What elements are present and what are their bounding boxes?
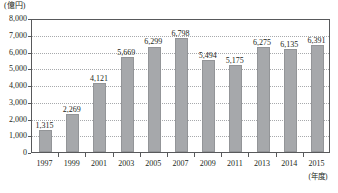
y-axis-tick-label: 0 xyxy=(0,149,27,157)
x-axis-tick-label: 2015 xyxy=(299,159,333,168)
y-axis-tick-label: 6,000 xyxy=(0,49,27,57)
bar-value-label: 6,299 xyxy=(136,37,170,46)
bar-value-label: 6,391 xyxy=(299,36,333,45)
bar-value-label: 1,315 xyxy=(28,121,62,130)
x-axis-tick-mark xyxy=(248,153,249,157)
bar xyxy=(93,83,106,152)
y-axis-unit-label: (億円) xyxy=(4,1,25,11)
y-axis-tick-label: 4,000 xyxy=(0,82,27,90)
x-axis-tick-mark xyxy=(221,153,222,157)
y-axis-tick-label: 3,000 xyxy=(0,99,27,107)
bar-chart: (億円) 8,0007,0006,0005,0004,0003,0002,000… xyxy=(0,0,338,193)
y-axis-tick-label: 7,000 xyxy=(0,32,27,40)
y-axis-tick-label: 5,000 xyxy=(0,65,27,73)
bar xyxy=(257,47,270,152)
x-axis-note: (年度) xyxy=(300,172,336,181)
bar xyxy=(121,57,134,152)
x-axis-tick-mark xyxy=(85,153,86,157)
bar xyxy=(148,47,161,153)
y-axis-tick-label: 2,000 xyxy=(0,116,27,124)
bar-value-label: 6,798 xyxy=(164,29,198,38)
x-axis-tick-mark xyxy=(140,153,141,157)
bar xyxy=(202,60,215,152)
bar-value-label: 4,121 xyxy=(82,74,116,83)
x-axis-tick-mark xyxy=(303,153,304,157)
x-axis-tick-mark xyxy=(58,153,59,157)
bar xyxy=(229,65,242,152)
bar xyxy=(39,130,52,152)
bar-value-label: 2,269 xyxy=(55,105,89,114)
x-axis-tick-mark xyxy=(276,153,277,157)
bar-value-label: 5,669 xyxy=(109,48,143,57)
bar xyxy=(284,49,297,152)
bar-value-label: 5,175 xyxy=(218,56,252,65)
bar xyxy=(311,45,324,152)
x-axis-tick-mark xyxy=(167,153,168,157)
x-axis-tick-mark xyxy=(194,153,195,157)
y-axis-tick-label: 1,000 xyxy=(0,132,27,140)
y-axis-tick-label: 8,000 xyxy=(0,15,27,23)
bar xyxy=(66,114,79,152)
plot-area xyxy=(31,19,330,153)
x-axis-tick-mark xyxy=(113,153,114,157)
y-axis-tick-mark xyxy=(28,153,31,154)
bar xyxy=(175,38,188,152)
